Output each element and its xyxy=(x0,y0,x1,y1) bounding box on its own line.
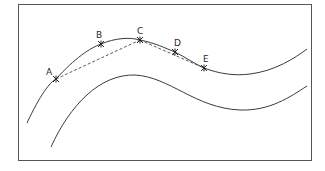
point-label: B xyxy=(96,30,102,40)
lower-curve xyxy=(51,75,307,147)
point-label: E xyxy=(203,54,209,64)
curves-group xyxy=(27,38,307,147)
curve-diagram: ABCDE xyxy=(0,0,325,171)
diagram-frame xyxy=(19,5,312,161)
point-label: C xyxy=(137,26,143,36)
points-group: ABCDE xyxy=(46,26,209,83)
dashed-chord-c-e xyxy=(140,40,204,68)
point-b: B xyxy=(96,30,104,48)
point-label: A xyxy=(46,67,53,77)
upper-curve xyxy=(27,38,307,123)
point-a: A xyxy=(46,67,59,83)
point-d: D xyxy=(172,38,181,56)
dashed-chords-group xyxy=(56,40,204,79)
point-label: D xyxy=(174,38,181,48)
dashed-chord-a-c xyxy=(56,40,140,79)
